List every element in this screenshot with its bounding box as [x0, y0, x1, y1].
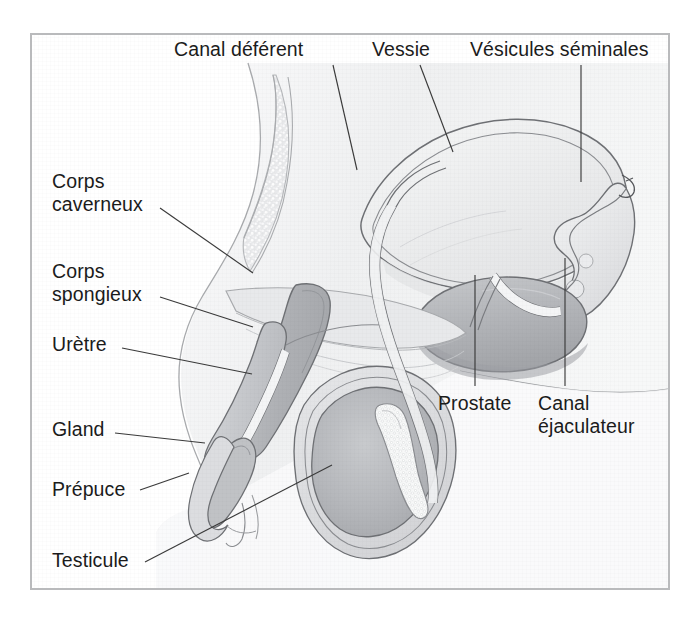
label-corps-caverneux-line2: caverneux: [52, 193, 143, 215]
anatomy-illustration: [30, 33, 670, 590]
label-prepuce: Prépuce: [52, 478, 125, 501]
label-canal-deferent: Canal déférent: [174, 38, 303, 61]
label-canal-ejaculateur-line2: éjaculateur: [538, 415, 635, 437]
label-uretre: Urètre: [52, 333, 107, 356]
label-gland: Gland: [52, 418, 105, 441]
label-vessie: Vessie: [372, 38, 430, 61]
label-corps-spongieux-line1: Corps: [52, 260, 105, 282]
label-canal-ejaculateur-line1: Canal: [538, 392, 589, 414]
label-corps-spongieux: Corpsspongieux: [52, 260, 142, 305]
label-corps-spongieux-line2: spongieux: [52, 283, 142, 305]
label-corps-caverneux-line1: Corps: [52, 170, 105, 192]
label-canal-ejaculateur: Canaléjaculateur: [538, 392, 635, 437]
label-corps-caverneux: Corpscaverneux: [52, 170, 143, 215]
paper-texture: [30, 33, 670, 590]
label-vesicules-seminales: Vésicules séminales: [470, 38, 649, 61]
label-prostate: Prostate: [438, 392, 511, 415]
label-testicule: Testicule: [52, 549, 129, 572]
figure-root: Canal déférent Vessie Vésicules séminale…: [0, 0, 689, 618]
